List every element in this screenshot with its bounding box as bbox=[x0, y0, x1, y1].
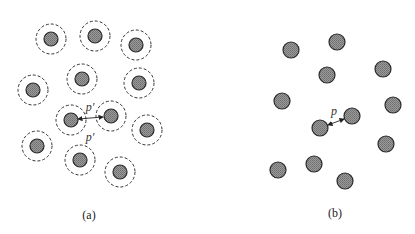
particle bbox=[140, 123, 154, 137]
particle-diagram: (a) (b) p'p'p bbox=[0, 0, 415, 234]
caption-b: (b) bbox=[328, 206, 342, 221]
particle bbox=[337, 173, 353, 189]
particle bbox=[64, 113, 78, 127]
particle bbox=[319, 67, 335, 83]
distance-label: p' bbox=[86, 100, 95, 115]
particle bbox=[306, 156, 322, 172]
particle bbox=[73, 153, 87, 167]
caption-a: (a) bbox=[82, 208, 95, 223]
particle bbox=[30, 139, 44, 153]
particle bbox=[283, 42, 299, 58]
distance-label: p' bbox=[86, 130, 95, 145]
particle bbox=[274, 93, 290, 109]
particle bbox=[26, 83, 40, 97]
particle bbox=[378, 136, 394, 152]
particle bbox=[44, 32, 58, 46]
particle bbox=[104, 109, 118, 123]
particle bbox=[75, 72, 89, 86]
particle bbox=[312, 120, 328, 136]
particle bbox=[329, 34, 345, 50]
particle bbox=[344, 108, 360, 124]
diagram-canvas bbox=[0, 0, 415, 234]
particle bbox=[113, 165, 127, 179]
particle bbox=[375, 61, 391, 77]
distance-arrow bbox=[328, 119, 344, 125]
particle bbox=[129, 38, 143, 52]
particle bbox=[132, 76, 146, 90]
particle bbox=[385, 97, 401, 113]
distance-label: p bbox=[331, 104, 337, 119]
particle bbox=[270, 162, 286, 178]
particle bbox=[88, 29, 102, 43]
distance-arrow bbox=[78, 117, 103, 119]
